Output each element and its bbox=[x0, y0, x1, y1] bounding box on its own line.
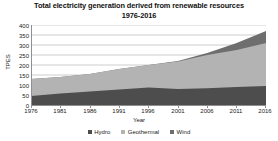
legend-label: Wind bbox=[177, 129, 191, 135]
legend-swatch-icon bbox=[121, 130, 125, 134]
y-tick-label: 150 bbox=[8, 73, 29, 79]
stacked-area-svg bbox=[31, 25, 266, 105]
y-tick-label: 250 bbox=[8, 53, 29, 59]
x-tick-label: 1986 bbox=[75, 108, 105, 114]
y-tick-label: 50 bbox=[8, 93, 29, 99]
y-tick-label: 100 bbox=[8, 83, 29, 89]
chart-container: Total electricity generation derived fro… bbox=[0, 0, 278, 141]
y-axis-title: TPES bbox=[5, 47, 11, 77]
legend-label: Geothermal bbox=[128, 129, 159, 135]
y-tick-label: 350 bbox=[8, 33, 29, 39]
x-tick-label: 1981 bbox=[45, 108, 75, 114]
legend-label: Hydro bbox=[94, 129, 110, 135]
y-tick-label: 400 bbox=[8, 23, 29, 29]
x-tick-label: 2011 bbox=[221, 108, 251, 114]
x-tick-label: 1991 bbox=[104, 108, 134, 114]
y-tick-label: 200 bbox=[8, 63, 29, 69]
y-axis-line bbox=[31, 25, 32, 105]
legend-swatch-icon bbox=[88, 130, 92, 134]
legend-item-wind[interactable]: Wind bbox=[170, 129, 190, 135]
x-tick-label: 2016 bbox=[250, 108, 278, 114]
chart-legend: Hydro Geothermal Wind bbox=[0, 129, 278, 135]
x-tick-label: 2006 bbox=[192, 108, 222, 114]
plot-area bbox=[31, 25, 266, 105]
x-tick-label: 1996 bbox=[133, 108, 163, 114]
legend-item-geothermal[interactable]: Geothermal bbox=[121, 129, 159, 135]
legend-swatch-icon bbox=[170, 130, 174, 134]
legend-item-hydro[interactable]: Hydro bbox=[88, 129, 111, 135]
y-tick-label: 300 bbox=[8, 43, 29, 49]
x-tick-label: 2001 bbox=[163, 108, 193, 114]
x-axis-title: Year bbox=[0, 117, 278, 123]
x-tick-label: 1976 bbox=[16, 108, 46, 114]
